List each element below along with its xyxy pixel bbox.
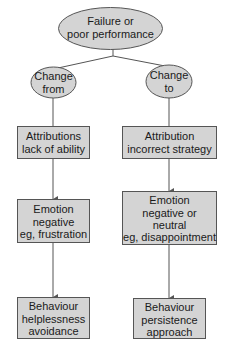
left-behaviour-line-2: helplessness bbox=[22, 313, 86, 325]
root-node-failure: Failure or poor performance bbox=[59, 8, 163, 50]
right-behaviour-line-1: Behaviour bbox=[145, 301, 195, 313]
left-behaviour-line-1: Behaviour bbox=[29, 300, 79, 312]
flow-diagram: Failure or poor performance Change from … bbox=[0, 0, 225, 346]
right-behaviour-box: Behaviour persistence approach bbox=[134, 299, 206, 339]
right-emotion-line-1: Emotion bbox=[149, 194, 189, 206]
right-attribution-line-1: Attribution bbox=[145, 130, 195, 142]
root-node-line-2: poor performance bbox=[67, 28, 154, 40]
change-from-line-2: from bbox=[43, 83, 65, 95]
right-emotion-box: Emotion negative or neutral eg, disappoi… bbox=[123, 192, 217, 245]
right-emotion-line-3: neutral bbox=[153, 219, 187, 231]
root-node-line-1: Failure or bbox=[87, 15, 134, 27]
right-behaviour-line-3: approach bbox=[147, 326, 193, 338]
right-emotion-line-2: negative or bbox=[142, 207, 197, 219]
left-emotion-line-1: Emotion bbox=[33, 203, 73, 215]
right-attribution-box: Attribution incorrect strategy bbox=[123, 127, 217, 159]
left-attributions-box: Attributions lack of ability bbox=[18, 127, 90, 159]
left-emotion-line-2: negative bbox=[33, 216, 75, 228]
left-behaviour-box: Behaviour helplessness avoidance bbox=[18, 298, 90, 339]
root-to-left-connector bbox=[58, 56, 113, 68]
left-behaviour-line-3: avoidance bbox=[28, 325, 78, 337]
right-emotion-line-4: eg, disappointment bbox=[123, 231, 216, 243]
left-emotion-line-3: eg, frustration bbox=[20, 228, 87, 240]
change-to-node: Change to bbox=[146, 65, 192, 98]
root-to-right-connector bbox=[113, 56, 165, 66]
left-attributions-line-1: Attributions bbox=[26, 130, 82, 142]
right-attribution-line-2: incorrect strategy bbox=[127, 143, 212, 155]
change-from-node: Change from bbox=[31, 67, 76, 98]
change-to-line-2: to bbox=[164, 82, 173, 94]
left-attributions-line-2: lack of ability bbox=[22, 143, 85, 155]
change-to-line-1: Change bbox=[150, 69, 189, 81]
right-behaviour-line-2: persistence bbox=[141, 314, 197, 326]
change-from-line-1: Change bbox=[34, 70, 73, 82]
left-emotion-box: Emotion negative eg, frustration bbox=[18, 200, 90, 243]
